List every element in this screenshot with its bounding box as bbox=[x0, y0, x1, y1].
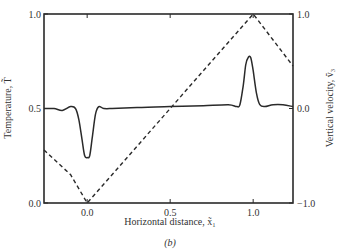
y-right-tick-label: 0.0 bbox=[297, 103, 310, 114]
temperature-line bbox=[44, 56, 293, 158]
x-axis-label: Horizontal distance, x̃₁ bbox=[124, 216, 216, 227]
axes-layer: 0.00.51.00.00.51.0−1.00.01.0 bbox=[29, 9, 316, 219]
y-left-tick-label: 1.0 bbox=[29, 9, 42, 20]
x-tick-label: 0.0 bbox=[81, 207, 94, 218]
figure-caption: (b) bbox=[164, 237, 176, 249]
y-axis-right-label: Vertical velocity, ṽ₃ bbox=[324, 69, 335, 148]
y-right-tick-label: −1.0 bbox=[297, 198, 315, 209]
chart: 0.00.51.00.00.51.0−1.00.01.0 Horizontal … bbox=[0, 0, 340, 250]
plot-frame bbox=[44, 14, 293, 203]
y-left-tick-label: 0.0 bbox=[29, 198, 42, 209]
series-layer bbox=[44, 14, 293, 203]
vertical-velocity-line bbox=[44, 14, 293, 203]
y-right-tick-label: 1.0 bbox=[297, 9, 310, 20]
x-tick-label: 1.0 bbox=[247, 207, 260, 218]
y-left-tick-label: 0.5 bbox=[29, 103, 42, 114]
y-axis-left-label: Temperature, T̃ bbox=[1, 77, 13, 138]
